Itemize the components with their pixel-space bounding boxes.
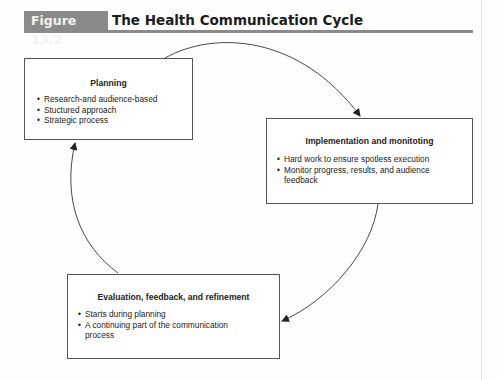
arrow-implementation-to-evaluation xyxy=(282,204,378,321)
box-title: Implementation and monitoting xyxy=(267,136,472,146)
bullet-item: Starts during planning xyxy=(78,309,248,320)
bullet-item: Strategic process xyxy=(37,115,192,126)
bullet-item: Hard work to ensure spotless execution xyxy=(277,154,457,165)
bullet-item: A continuing part of the communication p… xyxy=(78,320,248,341)
arrow-planning-to-implementation xyxy=(165,43,360,116)
box-title: Evaluation, feedback, and refinement xyxy=(68,292,279,302)
implementation-box: Implementation and monitoting Hard work … xyxy=(266,118,473,204)
arrow-evaluation-to-planning xyxy=(71,143,118,273)
box-title: Planning xyxy=(25,78,192,88)
planning-box: Planning Research-and audience-based Stu… xyxy=(24,58,193,140)
bullet-item: Research-and audience-based xyxy=(37,94,192,105)
bullet-item: Stuctured approach xyxy=(37,105,192,116)
bullet-item: Monitor progress, results, and audience … xyxy=(277,165,457,186)
evaluation-box: Evaluation, feedback, and refinement Sta… xyxy=(67,274,280,359)
